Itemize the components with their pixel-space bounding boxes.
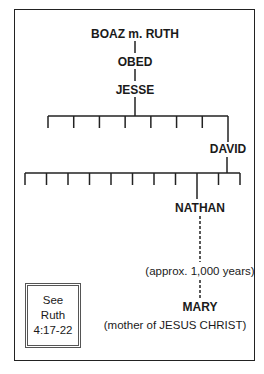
gap-note: (approx. 1,000 years) bbox=[145, 264, 254, 278]
node-boaz-ruth: BOAZ m. RUTH bbox=[91, 27, 179, 41]
node-mary: MARY bbox=[183, 300, 218, 314]
mary-note: (mother of JESUS CHRIST) bbox=[104, 318, 247, 332]
node-nathan: NATHAN bbox=[175, 201, 225, 215]
node-obed: OBED bbox=[118, 55, 153, 69]
node-david: DAVID bbox=[210, 142, 246, 156]
reference-line-1: See bbox=[43, 293, 63, 308]
reference-line-2: Ruth bbox=[41, 308, 65, 323]
node-jesse: JESSE bbox=[116, 83, 155, 97]
reference-box: See Ruth 4:17-22 bbox=[25, 283, 81, 348]
reference-line-3: 4:17-22 bbox=[33, 323, 72, 338]
